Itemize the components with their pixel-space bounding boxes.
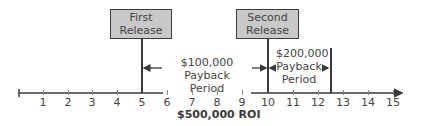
payback-2-middle: Payback xyxy=(276,60,322,73)
payback-1-suffix: Period xyxy=(163,82,251,95)
roi-label: $500,000 ROI xyxy=(177,108,261,121)
tick-label-4: 4 xyxy=(107,96,127,109)
payback-1-amount: $100,000 Payback xyxy=(163,56,251,82)
payback-2-amount: $200,000 xyxy=(276,47,322,60)
tick-label-14: 14 xyxy=(358,96,378,109)
tick-label-15: 15 xyxy=(383,96,403,109)
payback-period-1-label: $100,000 Payback Period xyxy=(163,56,251,95)
tick-label-6: 6 xyxy=(157,96,177,109)
tick-label-13: 13 xyxy=(333,96,353,109)
tick-label-1: 1 xyxy=(33,96,53,109)
tick-label-5: 5 xyxy=(132,96,152,109)
tick-label-10: 10 xyxy=(258,96,278,109)
tick-label-2: 2 xyxy=(58,96,78,109)
tick-label-11: 11 xyxy=(283,96,303,109)
payback-2-suffix: Period xyxy=(276,73,322,86)
payback-period-2-label: $200,000 Payback Period xyxy=(276,47,322,86)
tick-label-3: 3 xyxy=(82,96,102,109)
tick-label-12: 12 xyxy=(308,96,328,109)
